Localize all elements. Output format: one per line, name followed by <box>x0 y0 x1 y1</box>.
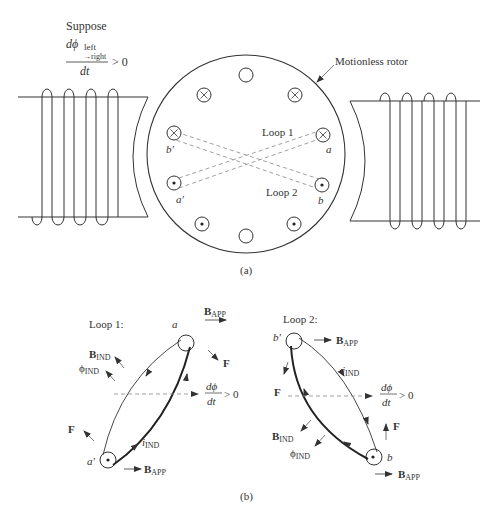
b-ind-arrow-icon <box>115 357 124 368</box>
loop2-terminal-b: b <box>387 451 393 463</box>
left-stator <box>18 89 148 225</box>
slot-a-cross-icon <box>316 128 330 142</box>
condition-text: Suppose dϕ left →right dt > 0 <box>66 19 128 78</box>
loop2-label: Loop 2 <box>266 186 297 198</box>
slot-b-prime-cross-icon <box>167 126 181 140</box>
force-arrow-icon <box>284 362 288 374</box>
loop1-label: Loop 1 <box>262 126 293 138</box>
loop1-phi-ind: ϕIND <box>79 362 99 376</box>
slot-empty-icon <box>239 68 253 82</box>
rotor-pointer-arrow <box>317 65 334 82</box>
slot-a-prime-dot-icon <box>167 176 181 190</box>
terminal-a: a <box>326 143 332 155</box>
loop1-force-top: F <box>223 357 230 369</box>
phi-ind-arrow-icon <box>106 371 115 381</box>
current-arrow-icon <box>146 370 150 376</box>
loop2-force-right: F <box>393 420 400 432</box>
slot-b-dot-icon <box>315 178 329 192</box>
loop1-terminal-a-prime: a′ <box>87 455 96 467</box>
loop1-b-app-top: BAPP <box>204 305 227 319</box>
current-arrow-icon <box>186 374 187 380</box>
current-arrow-icon <box>304 389 306 395</box>
loop2-force-left: F <box>274 386 281 398</box>
loop2-title: Loop 2: <box>283 313 318 325</box>
rotor-outline <box>147 55 345 253</box>
force-arrow-icon <box>208 350 218 360</box>
subscript-left: left <box>84 42 96 52</box>
suppose-label: Suppose <box>66 19 107 33</box>
loop-wires <box>170 130 322 190</box>
loop1-diagram: Loop 1: a BAPP BIND ϕIND F dϕ dt > 0 F i… <box>68 305 239 477</box>
slot-cross-icon <box>197 88 211 102</box>
loop1-i-ind: iIND <box>142 436 160 450</box>
dphi-numerator: dϕ <box>66 37 78 51</box>
loop1-dot-icon <box>106 458 109 461</box>
loop2-i-ind: iIND <box>342 364 360 378</box>
loop1-title: Loop 1: <box>89 318 124 330</box>
rotor: b′ a a′ b Loop 1 Loop 2 <box>147 55 345 253</box>
force-arrow-icon <box>84 431 94 441</box>
loop1-gt-zero: > 0 <box>224 388 239 400</box>
right-stator-winding <box>380 93 466 229</box>
terminal-b-prime: b′ <box>166 143 175 155</box>
dt-denominator: dt <box>80 64 90 78</box>
loop2-top-conductor <box>286 333 302 349</box>
loop2-dt: dt <box>382 396 392 408</box>
diagram-canvas: Suppose dϕ left →right dt > 0 <box>0 0 493 511</box>
caption-a: (a) <box>240 264 253 277</box>
loop2-b-app-bottom: BAPP <box>398 468 421 482</box>
rotor-label: Motionless rotor <box>335 55 408 67</box>
caption-b: (b) <box>240 490 253 503</box>
loop1-terminal-a: a <box>172 318 178 330</box>
terminal-a-prime: a′ <box>176 193 185 205</box>
loop1-top-conductor <box>178 335 194 351</box>
loop2-diagram: Loop 2: b′ BAPP iIND F dϕ dt > 0 F BIND … <box>272 313 421 482</box>
right-stator <box>350 93 480 229</box>
loop1-force-bottom: F <box>68 423 75 435</box>
greater-than-zero: > 0 <box>112 55 128 69</box>
loop2-terminal-b-prime: b′ <box>273 331 282 343</box>
loop2-gt-zero: > 0 <box>399 389 414 401</box>
terminal-b: b <box>318 194 324 206</box>
subscript-right: →right <box>83 52 107 61</box>
loop2-dot-icon <box>371 455 374 458</box>
loop2-phi-ind: ϕIND <box>290 447 310 461</box>
slot-cross-icon <box>288 88 302 102</box>
phi-ind-arrow-icon <box>315 435 325 446</box>
slot-dot-icon <box>287 217 301 231</box>
loop2-b-app-top: BAPP <box>336 334 359 348</box>
loop1-b-app-bottom: BAPP <box>144 463 167 477</box>
loop2-dphi: dϕ <box>381 381 393 393</box>
loop1-b-ind: BIND <box>89 348 111 362</box>
b-ind-arrow-icon <box>301 420 311 431</box>
left-stator-winding <box>32 89 118 225</box>
loop2-b-ind: BIND <box>272 430 294 444</box>
loop1-dt: dt <box>207 395 217 407</box>
slot-dot-icon <box>195 217 209 231</box>
loop1-dphi: dϕ <box>206 380 218 392</box>
slot-empty-icon <box>239 229 253 243</box>
